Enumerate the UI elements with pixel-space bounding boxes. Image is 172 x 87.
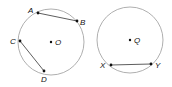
label-x: X [99, 61, 106, 70]
chord-ab [38, 13, 77, 21]
label-b: B [80, 18, 86, 27]
chord-cd [20, 41, 44, 71]
label-y: Y [155, 61, 161, 70]
right-circle-group: X Y Q [97, 7, 163, 73]
point-b [76, 20, 79, 23]
label-c: C [10, 37, 16, 46]
center-q [129, 39, 131, 41]
center-o [50, 41, 52, 43]
label-a: A [27, 6, 33, 15]
point-d [43, 70, 46, 73]
label-d: D [41, 75, 47, 84]
point-c [19, 40, 22, 43]
two-circles-diagram: A B C D O X Y Q [0, 0, 172, 87]
label-q: Q [134, 36, 140, 45]
point-a [37, 12, 40, 15]
point-x [110, 64, 113, 67]
label-o: O [55, 38, 61, 47]
point-y [150, 63, 153, 66]
left-circle-group: A B C D O [10, 6, 86, 84]
chord-xy [111, 64, 151, 65]
